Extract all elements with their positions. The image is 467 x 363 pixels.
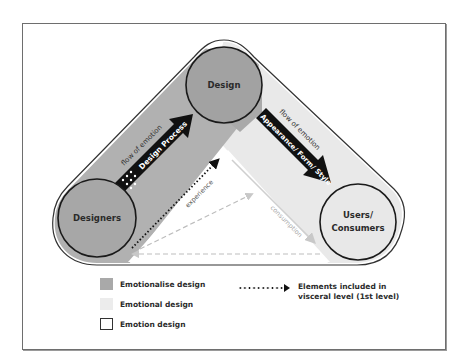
legend-item-emotionalise: Emotionalise design bbox=[100, 278, 205, 290]
legend-label: Emotion design bbox=[120, 320, 186, 329]
legend-item-emotional: Emotional design bbox=[100, 298, 193, 310]
designers-label: Designers bbox=[73, 213, 121, 223]
legend: Emotionalise design Emotional design Emo… bbox=[100, 278, 420, 338]
arrowhead-icon bbox=[284, 284, 290, 292]
users-label-line2: Consumers bbox=[331, 223, 384, 233]
swatch-white bbox=[100, 318, 113, 330]
dotted-line-icon bbox=[238, 287, 284, 289]
legend-visceral-arrow: Elements included in visceral level (1st… bbox=[238, 282, 399, 302]
legend-item-emotion: Emotion design bbox=[100, 318, 186, 330]
designers-node: Designers bbox=[58, 179, 136, 257]
users-node: Users/ Consumers bbox=[320, 184, 396, 260]
legend-label: Emotional design bbox=[120, 300, 193, 309]
legend-arrow-line1: Elements included in bbox=[298, 282, 386, 291]
users-label-line1: Users/ bbox=[343, 210, 374, 220]
swatch-light bbox=[100, 298, 113, 310]
swatch-dark bbox=[100, 278, 113, 290]
design-node: Design bbox=[186, 47, 262, 123]
legend-label: Emotionalise design bbox=[120, 280, 205, 289]
legend-arrow-line2: visceral level (1st level) bbox=[298, 292, 399, 301]
design-label: Design bbox=[208, 80, 241, 90]
